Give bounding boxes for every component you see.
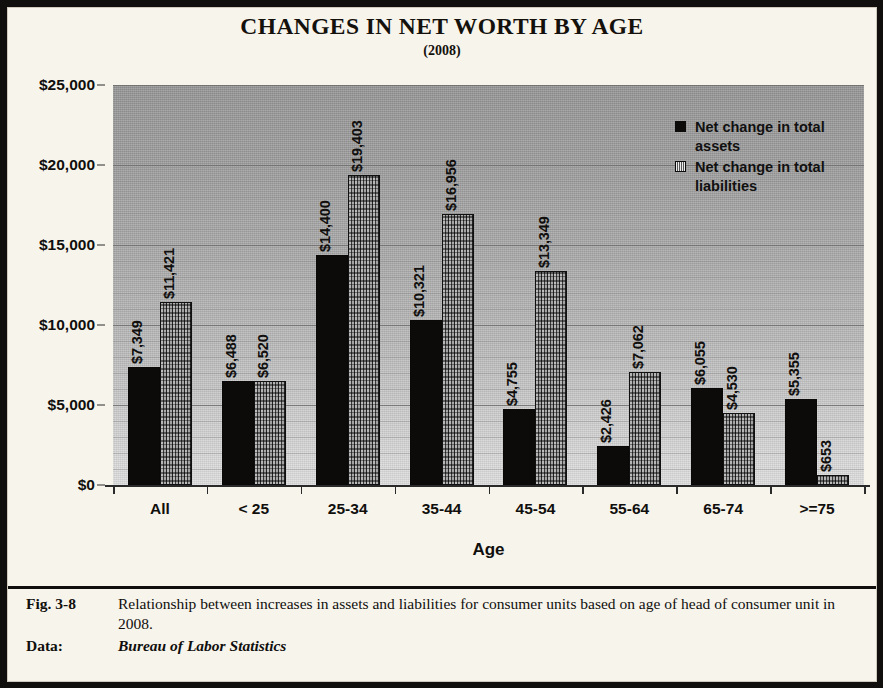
bar-value-label: $16,956 xyxy=(443,159,459,211)
bar-assets: $2,426 xyxy=(597,446,629,485)
x-axis-tick-mark xyxy=(113,485,115,494)
bar-liabilities: $19,403 xyxy=(348,175,380,485)
bar-value-label: $5,355 xyxy=(786,353,802,397)
bar-assets: $5,355 xyxy=(785,399,817,485)
y-axis-tick-label: $15,000 xyxy=(39,236,95,254)
y-axis-tick-label: $5,000 xyxy=(48,396,95,414)
y-axis-tick-mark xyxy=(97,165,105,166)
bar-value-label: $19,403 xyxy=(349,120,365,172)
x-axis-line xyxy=(105,485,870,487)
y-axis-tick-label: $25,000 xyxy=(39,76,95,94)
bar-value-label: $14,400 xyxy=(317,200,333,252)
y-axis-tick-mark xyxy=(97,85,105,86)
bar-liabilities: $16,956 xyxy=(442,214,474,485)
y-axis-tick-mark xyxy=(97,405,105,406)
bar-liabilities: $4,530 xyxy=(723,413,755,485)
caption-row-data: Data: Bureau of Labor Statistics xyxy=(26,636,862,656)
bar-group: $6,488$6,520 xyxy=(222,85,286,485)
bar-liabilities: $653 xyxy=(817,475,849,485)
bar-group: $7,349$11,421 xyxy=(128,85,192,485)
legend-swatch-liabilities-icon xyxy=(675,161,686,172)
chart-subtitle: (2008) xyxy=(8,43,876,59)
bar-liabilities: $7,062 xyxy=(629,372,661,485)
x-axis-tick-label: 35-44 xyxy=(422,500,462,518)
x-axis-tick-mark xyxy=(864,485,866,494)
bar-assets: $14,400 xyxy=(316,255,348,485)
x-axis-tick-labels: All< 2525-3435-4445-5455-6465-74>=75 xyxy=(113,500,864,524)
y-axis-tick-mark xyxy=(97,485,105,486)
x-axis-tick-mark xyxy=(676,485,678,494)
bar-value-label: $6,055 xyxy=(692,341,708,385)
y-axis: $0$5,000$10,000$15,000$20,000$25,000 xyxy=(8,85,105,485)
x-axis-tick-label: 25-34 xyxy=(328,500,368,518)
legend-item-liabilities: Net change in total liabilities xyxy=(675,158,861,195)
caption-data-source: Bureau of Labor Statistics xyxy=(118,636,862,656)
bar-value-label: $10,321 xyxy=(411,265,427,317)
bar-value-label: $4,755 xyxy=(504,362,520,406)
x-axis-tick-mark xyxy=(582,485,584,494)
x-axis-tick-mark xyxy=(770,485,772,494)
bar-liabilities: $13,349 xyxy=(535,271,567,485)
bar-group: $10,321$16,956 xyxy=(410,85,474,485)
x-axis-tick-label: All xyxy=(150,500,170,518)
bar-assets: $6,488 xyxy=(222,381,254,485)
figure-inner: CHANGES IN NET WORTH BY AGE (2008) $0$5,… xyxy=(7,7,877,682)
chart-legend: Net change in total assets Net change in… xyxy=(675,118,861,198)
caption-figure-text: Relationship between increases in assets… xyxy=(118,594,862,635)
x-axis-tick-mark xyxy=(395,485,397,494)
chart-title: CHANGES IN NET WORTH BY AGE xyxy=(8,14,876,39)
y-axis-tick-label: $0 xyxy=(78,476,95,494)
bar-group: $2,426$7,062 xyxy=(597,85,661,485)
y-axis-tick-label: $20,000 xyxy=(39,156,95,174)
legend-item-assets: Net change in total assets xyxy=(675,118,861,155)
x-axis-tick-mark xyxy=(489,485,491,494)
bar-assets: $7,349 xyxy=(128,367,160,485)
x-axis-tick-label: < 25 xyxy=(239,500,270,518)
bar-value-label: $11,421 xyxy=(161,248,177,299)
bar-value-label: $7,062 xyxy=(630,325,646,369)
x-axis-tick-label: 55-64 xyxy=(609,500,649,518)
caption-block: Fig. 3-8 Relationship between increases … xyxy=(8,594,876,656)
bar-assets: $4,755 xyxy=(503,409,535,485)
caption-data-tag: Data: xyxy=(26,637,118,655)
plot-area: $7,349$11,421$6,488$6,520$14,400$19,403$… xyxy=(113,85,864,485)
caption-row-figure: Fig. 3-8 Relationship between increases … xyxy=(26,594,862,635)
legend-label-assets: Net change in total assets xyxy=(695,118,861,155)
x-axis-tick-mark xyxy=(207,485,209,494)
bar-value-label: $7,349 xyxy=(129,321,145,365)
caption-divider xyxy=(8,586,876,589)
bar-value-label: $13,349 xyxy=(536,217,552,269)
legend-swatch-assets-icon xyxy=(675,121,686,132)
x-axis-tick-label: 45-54 xyxy=(516,500,556,518)
figure-frame: CHANGES IN NET WORTH BY AGE (2008) $0$5,… xyxy=(0,0,883,688)
bar-value-label: $6,488 xyxy=(223,334,239,378)
x-axis-tick-label: >=75 xyxy=(799,500,834,518)
bar-assets: $10,321 xyxy=(410,320,442,485)
y-axis-tick-mark xyxy=(97,245,105,246)
y-axis-tick-mark xyxy=(97,325,105,326)
bar-group: $4,755$13,349 xyxy=(503,85,567,485)
bar-value-label: $653 xyxy=(818,440,834,472)
bar-liabilities: $11,421 xyxy=(160,302,192,485)
legend-label-liabilities: Net change in total liabilities xyxy=(695,158,861,195)
x-axis-tick-label: 65-74 xyxy=(703,500,743,518)
bar-value-label: $4,530 xyxy=(724,366,740,410)
x-axis-tick-mark xyxy=(301,485,303,494)
bar-value-label: $2,426 xyxy=(598,399,614,443)
y-axis-tick-label: $10,000 xyxy=(39,316,95,334)
bar-assets: $6,055 xyxy=(691,388,723,485)
x-axis-title: Age xyxy=(113,540,864,560)
title-block: CHANGES IN NET WORTH BY AGE (2008) xyxy=(8,14,876,59)
bar-value-label: $6,520 xyxy=(255,334,271,378)
bar-liabilities: $6,520 xyxy=(254,381,286,485)
bar-group: $14,400$19,403 xyxy=(316,85,380,485)
caption-figure-tag: Fig. 3-8 xyxy=(26,595,118,613)
